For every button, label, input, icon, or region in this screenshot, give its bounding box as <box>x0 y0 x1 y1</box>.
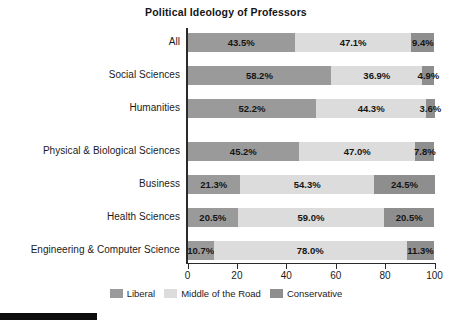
category-label: Humanities <box>129 102 180 113</box>
bar-row: Social Sciences58.2%36.9%4.9% <box>0 66 452 85</box>
bar-segment-liberal[interactable]: 43.5% <box>188 33 295 52</box>
category-label: Social Sciences <box>109 69 180 80</box>
x-axis-tick <box>435 263 436 269</box>
legend-label: Conservative <box>287 288 342 299</box>
x-axis-tick-label: 60 <box>330 270 341 281</box>
bar-segment-middle-of-the-road[interactable]: 36.9% <box>331 66 422 85</box>
x-axis-line <box>186 263 435 264</box>
category-label: Business <box>139 178 180 189</box>
bar-track: 43.5%47.1%9.4% <box>188 33 435 52</box>
bar-row: All43.5%47.1%9.4% <box>0 33 452 52</box>
bar-segment-middle-of-the-road[interactable]: 59.0% <box>238 208 384 227</box>
legend-label: Liberal <box>127 288 156 299</box>
scan-artifact <box>0 313 97 320</box>
x-axis-tick-label: 0 <box>185 270 191 281</box>
x-axis-tick-label: 80 <box>380 270 391 281</box>
bar-segment-liberal[interactable]: 45.2% <box>188 142 300 161</box>
bar-segment-liberal[interactable]: 20.5% <box>188 208 239 227</box>
bar-row: Business21.3%54.3%24.5% <box>0 175 452 194</box>
bar-segment-liberal[interactable]: 52.2% <box>188 99 317 118</box>
bar-track: 20.5%59.0%20.5% <box>188 208 435 227</box>
x-axis-tick <box>385 263 386 269</box>
bar-segment-conservative[interactable]: 24.5% <box>374 175 435 194</box>
x-axis-tick-label: 100 <box>426 270 443 281</box>
chart-plot-area: 020406080100 All43.5%47.1%9.4%Social Sci… <box>0 0 452 324</box>
x-axis-tick <box>237 263 238 269</box>
bar-track: 45.2%47.0%7.8% <box>188 142 435 161</box>
bar-segment-liberal[interactable]: 10.7% <box>188 241 214 260</box>
bar-row: Humanities52.2%44.3%3.6% <box>0 99 452 118</box>
x-axis-tick-label: 20 <box>231 270 242 281</box>
bar-row: Engineering & Computer Science10.7%78.0%… <box>0 241 452 260</box>
bar-segment-conservative[interactable]: 3.6% <box>426 99 435 118</box>
bar-row: Health Sciences20.5%59.0%20.5% <box>0 208 452 227</box>
bar-segment-middle-of-the-road[interactable]: 78.0% <box>214 241 407 260</box>
bar-segment-conservative[interactable]: 4.9% <box>422 66 434 85</box>
legend-item[interactable]: Middle of the Road <box>164 288 261 299</box>
category-label: All <box>169 36 180 47</box>
bar-segment-conservative[interactable]: 9.4% <box>411 33 434 52</box>
bar-segment-middle-of-the-road[interactable]: 54.3% <box>240 175 374 194</box>
bar-track: 10.7%78.0%11.3% <box>188 241 435 260</box>
chart-legend: LiberalMiddle of the RoadConservative <box>0 288 452 299</box>
legend-item[interactable]: Liberal <box>110 288 156 299</box>
bar-track: 58.2%36.9%4.9% <box>188 66 435 85</box>
legend-swatch-icon <box>110 289 123 298</box>
bar-segment-conservative[interactable]: 11.3% <box>407 241 435 260</box>
legend-label: Middle of the Road <box>181 288 261 299</box>
category-label: Physical & Biological Sciences <box>43 145 180 156</box>
category-label: Health Sciences <box>107 211 180 222</box>
bar-segment-conservative[interactable]: 20.5% <box>384 208 435 227</box>
x-axis-tick-label: 40 <box>281 270 292 281</box>
bar-segment-liberal[interactable]: 21.3% <box>188 175 241 194</box>
x-axis-tick <box>188 263 189 269</box>
legend-swatch-icon <box>164 289 177 298</box>
bar-track: 21.3%54.3%24.5% <box>188 175 435 194</box>
bar-segment-conservative[interactable]: 7.8% <box>415 142 434 161</box>
x-axis-tick <box>336 263 337 269</box>
x-axis-tick <box>286 263 287 269</box>
bar-segment-liberal[interactable]: 58.2% <box>188 66 332 85</box>
bar-segment-middle-of-the-road[interactable]: 47.0% <box>299 142 415 161</box>
bar-track: 52.2%44.3%3.6% <box>188 99 435 118</box>
legend-item[interactable]: Conservative <box>270 288 342 299</box>
legend-swatch-icon <box>270 289 283 298</box>
bar-segment-middle-of-the-road[interactable]: 44.3% <box>316 99 425 118</box>
bar-segment-middle-of-the-road[interactable]: 47.1% <box>295 33 411 52</box>
category-label: Engineering & Computer Science <box>31 244 180 255</box>
bar-row: Physical & Biological Sciences45.2%47.0%… <box>0 142 452 161</box>
